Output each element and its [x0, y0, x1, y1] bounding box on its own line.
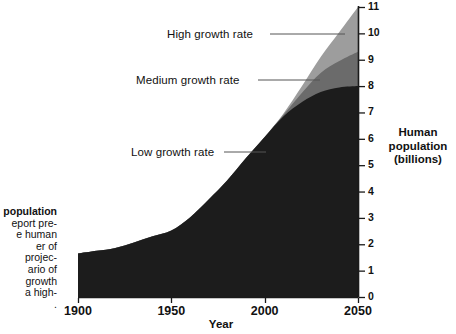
- annotation-high-growth-rate: High growth rate: [167, 28, 253, 40]
- y-axis-tick-label: 0: [368, 290, 384, 302]
- y-axis-tick-label: 7: [368, 105, 384, 117]
- x-axis-title: Year: [191, 318, 251, 330]
- y-axis-tick-label: 1: [368, 264, 384, 276]
- chart-bands: [78, 7, 358, 297]
- y-axis-tick-label: 9: [368, 53, 384, 65]
- y-axis-tick-label: 3: [368, 211, 384, 223]
- annotation-low-growth-rate: Low growth rate: [131, 146, 214, 158]
- x-axis-tick-label: 1900: [51, 304, 105, 318]
- low-growth-band: [78, 86, 358, 297]
- annotation-medium-growth-rate: Medium growth rate: [136, 74, 239, 86]
- y-axis-title-line: population: [381, 140, 455, 154]
- y-axis-tick-label: 5: [368, 158, 384, 170]
- y-axis-tick-label: 6: [368, 132, 384, 144]
- y-axis-tick-label: 10: [368, 26, 384, 38]
- population-projection-figure: population eport pre- e human er of proj…: [0, 0, 456, 334]
- x-axis-tick-label: 2000: [238, 304, 292, 318]
- population-area-chart: [0, 0, 456, 334]
- y-axis-title-line: (billions): [381, 153, 455, 167]
- y-axis-tick-label: 8: [368, 79, 384, 91]
- y-axis-title: Human population (billions): [381, 126, 455, 167]
- y-axis-tick-label: 4: [368, 185, 384, 197]
- y-axis-tick-label: 11: [368, 0, 384, 12]
- x-axis-tick-label: 2050: [331, 304, 385, 318]
- x-axis-tick-label: 1950: [144, 304, 198, 318]
- y-axis-tick-label: 2: [368, 237, 384, 249]
- y-axis-title-line: Human: [381, 126, 455, 140]
